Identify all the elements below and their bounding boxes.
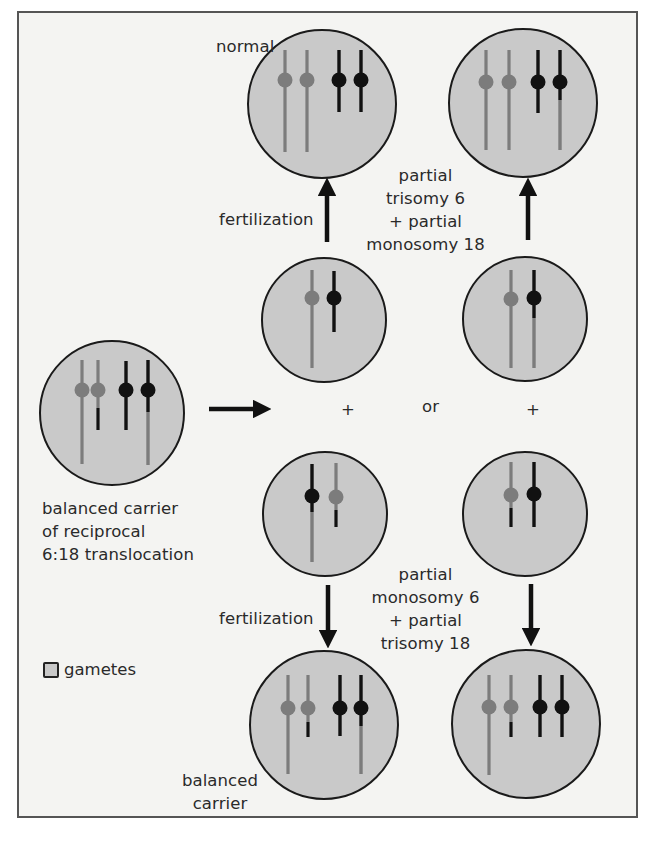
centromere-dot (329, 490, 344, 505)
cell-circle (463, 452, 587, 576)
centromere-dot (333, 701, 348, 716)
label-line: balanced carrier (42, 497, 194, 520)
centromere-dot (502, 75, 517, 90)
centromere-dot (533, 700, 548, 715)
label-line: carrier (170, 792, 270, 815)
centromere-dot (527, 487, 542, 502)
centromere-dot (504, 488, 519, 503)
legend: gametes (43, 660, 136, 679)
translocation-diagram (0, 0, 651, 843)
label-line: partial (363, 164, 488, 187)
label-line: + partial (363, 609, 488, 632)
cell-circle (40, 341, 184, 485)
label-partial-trisomy-6: partial trisomy 6 + partial monosomy 18 (363, 164, 488, 256)
centromere-dot (354, 701, 369, 716)
cell-zygote-partial-trisomy6 (449, 29, 597, 177)
label-or: or (422, 395, 439, 418)
label-line: partial (363, 563, 488, 586)
centromere-dot (141, 383, 156, 398)
label-line: 6:18 translocation (42, 543, 194, 566)
cell-gamete-lower-right (463, 452, 587, 576)
centromere-dot (482, 700, 497, 715)
centromere-dot (327, 291, 342, 306)
plus-sign-left: + (341, 398, 355, 421)
cell-zygote-partial-monosomy6 (452, 650, 600, 798)
label-balanced-carrier: balanced carrier (170, 769, 270, 815)
label-line: of reciprocal (42, 520, 194, 543)
centromere-dot (91, 383, 106, 398)
cell-circle (250, 651, 398, 799)
cell-gamete-upper-right (463, 257, 587, 381)
cell-circle (452, 650, 600, 798)
label-carrier-parent: balanced carrier of reciprocal 6:18 tran… (42, 497, 194, 566)
centromere-dot (301, 701, 316, 716)
plus-sign-right: + (526, 398, 540, 421)
label-line: balanced (170, 769, 270, 792)
centromere-dot (300, 73, 315, 88)
centromere-dot (305, 489, 320, 504)
label-line: monosomy 18 (363, 233, 488, 256)
cell-circle (262, 258, 386, 382)
centromere-dot (504, 700, 519, 715)
centromere-dot (354, 73, 369, 88)
label-line: + partial (363, 210, 488, 233)
centromere-dot (305, 291, 320, 306)
centromere-dot (332, 73, 347, 88)
legend-label: gametes (64, 660, 136, 679)
centromere-dot (479, 75, 494, 90)
centromere-dot (527, 291, 542, 306)
cell-circle (263, 452, 387, 576)
label-fertilization-bottom: fertilization (219, 607, 314, 630)
centromere-dot (553, 75, 568, 90)
label-line: trisomy 6 (363, 187, 488, 210)
centromere-dot (504, 292, 519, 307)
centromere-dot (555, 700, 570, 715)
cell-circle (449, 29, 597, 177)
label-normal: normal (216, 35, 274, 58)
label-partial-monosomy-6: partial monosomy 6 + partial trisomy 18 (363, 563, 488, 655)
label-line: trisomy 18 (363, 632, 488, 655)
centromere-dot (531, 75, 546, 90)
label-line: monosomy 6 (363, 586, 488, 609)
centromere-dot (119, 383, 134, 398)
cell-circle (463, 257, 587, 381)
centromere-dot (75, 383, 90, 398)
label-fertilization-top: fertilization (219, 208, 314, 231)
cell-gamete-upper-left (262, 258, 386, 382)
cell-zygote-balanced-carrier (250, 651, 398, 799)
cell-parent-carrier (40, 341, 184, 485)
gray-square-icon (43, 662, 59, 678)
cell-gamete-lower-left (263, 452, 387, 576)
centromere-dot (281, 701, 296, 716)
centromere-dot (278, 73, 293, 88)
